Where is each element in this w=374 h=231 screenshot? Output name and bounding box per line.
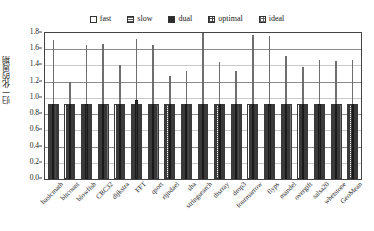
bar-ideal — [339, 104, 341, 179]
y-axis-ticks: 0.00.20.40.60.81.01.21.41.61.8 — [0, 32, 42, 180]
bar-ideal — [156, 104, 158, 179]
legend-label-fast: fast — [100, 15, 112, 23]
bar-set — [145, 33, 162, 179]
bar-group — [78, 33, 95, 179]
legend-item-slow[interactable]: slow — [127, 15, 152, 23]
x-tick-label: CRC32 — [95, 181, 115, 201]
bar-set — [344, 33, 361, 179]
x-tick-label: FFT — [134, 181, 147, 194]
bar-ideal — [73, 104, 75, 179]
bar-group — [228, 33, 245, 179]
y-tick-mark — [39, 113, 42, 114]
legend-item-optimal[interactable]: optimal — [208, 15, 242, 23]
bar-group — [128, 33, 145, 179]
bar-ideal — [273, 104, 275, 179]
y-tick-label: 0.0 — [30, 174, 39, 182]
bar-set — [328, 33, 345, 179]
legend-label-ideal: ideal — [269, 15, 285, 23]
bar-group — [311, 33, 328, 179]
legend-swatch-ideal-icon — [259, 16, 266, 23]
bar-set — [112, 33, 129, 179]
bar-ideal — [306, 104, 308, 179]
bar-set — [245, 33, 262, 179]
y-tick-mark — [39, 178, 42, 179]
bar-group — [195, 33, 212, 179]
bar-ideal — [323, 104, 325, 179]
bar-set — [62, 33, 79, 179]
x-tick-label: disrray — [212, 181, 231, 200]
y-tick-mark — [39, 80, 42, 81]
bar-group — [178, 33, 195, 179]
legend-label-dual: dual — [178, 15, 192, 23]
bar-group — [245, 33, 262, 179]
legend-swatch-slow-icon — [127, 16, 134, 23]
legend-swatch-dual-icon — [168, 16, 175, 23]
y-tick-mark — [39, 96, 42, 97]
bar-group — [145, 33, 162, 179]
legend-item-dual[interactable]: dual — [168, 15, 192, 23]
legend-item-ideal[interactable]: ideal — [259, 15, 285, 23]
bar-ideal — [140, 104, 142, 179]
legend-label-optimal: optimal — [218, 15, 242, 23]
bar-ideal — [206, 104, 208, 179]
bar-group — [328, 33, 345, 179]
bar-group — [294, 33, 311, 179]
bar-group — [261, 33, 278, 179]
bar-group — [112, 33, 129, 179]
y-tick-label: 0.4 — [30, 142, 39, 150]
y-tick-mark — [39, 48, 42, 49]
y-tick-label: 0.6 — [30, 126, 39, 134]
bar-set — [294, 33, 311, 179]
y-tick-label: 0.8 — [30, 109, 39, 117]
x-axis-labels: basicmathbitcountblowfishCRC32dijkstraFF… — [44, 181, 362, 231]
bar-group — [344, 33, 361, 179]
y-tick-mark — [39, 32, 42, 33]
bar-ideal — [57, 104, 59, 179]
plot-area — [44, 32, 362, 180]
bar-ideal — [240, 104, 242, 179]
bar-set — [278, 33, 295, 179]
bar-set — [195, 33, 212, 179]
bar-set — [128, 33, 145, 179]
y-tick-label: 1.8 — [30, 28, 39, 36]
bar-set — [178, 33, 195, 179]
bar-group — [211, 33, 228, 179]
bar-ideal — [90, 104, 92, 179]
bar-group — [62, 33, 79, 179]
bar-ideal — [106, 104, 108, 179]
bar-set — [211, 33, 228, 179]
bar-group — [95, 33, 112, 179]
bar-ideal — [356, 104, 358, 179]
bar-set — [228, 33, 245, 179]
y-tick-mark — [39, 161, 42, 162]
bar-set — [78, 33, 95, 179]
bar-groups — [45, 33, 361, 179]
y-tick-mark — [39, 145, 42, 146]
chart-container: fast slow dual optimal ideal 归一化的周期 0.00… — [0, 0, 374, 231]
bar-ideal — [123, 104, 125, 179]
legend-item-fast[interactable]: fast — [90, 15, 112, 23]
x-tick-label: rijndael — [161, 181, 181, 201]
bar-ideal — [173, 104, 175, 179]
y-tick-mark — [39, 129, 42, 130]
bar-group — [278, 33, 295, 179]
bar-ideal — [289, 104, 291, 179]
bar-set — [161, 33, 178, 179]
y-tick-label: 1.4 — [30, 61, 39, 69]
y-tick-label: 1.6 — [30, 44, 39, 52]
bar-ideal — [223, 104, 225, 179]
bar-set — [45, 33, 62, 179]
legend-label-slow: slow — [137, 15, 152, 23]
bar-group — [45, 33, 62, 179]
y-tick-label: 1.2 — [30, 77, 39, 85]
bar-set — [95, 33, 112, 179]
y-tick-label: 0.2 — [30, 158, 39, 166]
bar-set — [261, 33, 278, 179]
bar-ideal — [190, 104, 192, 179]
bar-ideal — [256, 104, 258, 179]
bar-group — [161, 33, 178, 179]
bar-set — [311, 33, 328, 179]
x-tick-label: dijkstra — [111, 181, 131, 201]
y-tick-label: 1.0 — [30, 93, 39, 101]
legend-swatch-optimal-icon — [208, 16, 215, 23]
